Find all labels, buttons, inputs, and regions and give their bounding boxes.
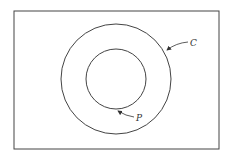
arrow-c (167, 42, 188, 50)
label-p: P (135, 113, 143, 123)
label-c: C (190, 38, 197, 48)
outer-circle-c (61, 24, 171, 134)
diagram-canvas: C P (0, 0, 231, 154)
frame-rectangle (14, 11, 219, 149)
inner-circle-p (86, 49, 146, 109)
arrow-p (118, 111, 134, 117)
